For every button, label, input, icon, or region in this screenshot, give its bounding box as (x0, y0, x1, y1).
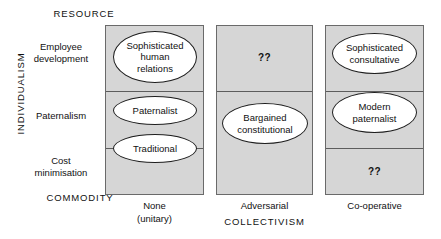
oval-sophisticated-human-relations: Sophisticated human relations (113, 31, 197, 83)
oval-bargained-constitutional-line1: Bargained (237, 112, 292, 124)
column-label-co-operative: Co-operative (325, 199, 424, 212)
x-axis-title-collectivism: COLLECTIVISM (216, 216, 313, 227)
oval-sophisticated-human-relations-line2: human (126, 51, 183, 63)
column-label-none-unitary: None (unitary) (105, 199, 204, 225)
oval-sophisticated-consultative: Sophisticated consultative (332, 33, 417, 74)
row-label-cost-minimisation-line2: minimisation (15, 167, 107, 179)
row-label-employee-development-line1: Employee (15, 41, 107, 53)
oval-sophisticated-human-relations-line1: Sophisticated (126, 40, 183, 52)
row-label-employee-development-line2: development (15, 53, 107, 65)
column-label-adversarial: Adversarial (216, 199, 313, 212)
oval-paternalist-label: Paternalist (133, 105, 178, 117)
row-label-paternalism-line1: Paternalism (15, 110, 107, 122)
cell-text-co-operative-cost-minimisation: ?? (326, 166, 423, 177)
resource-pole-label: RESOURCE (38, 8, 130, 19)
oval-modern-paternalist: Modern paternalist (332, 92, 417, 133)
oval-sophisticated-human-relations-line3: relations (126, 63, 183, 75)
hrm-style-matrix-diagram: RESOURCE INDIVIDUALISM Employee developm… (0, 0, 441, 239)
oval-modern-paternalist-line2: paternalist (353, 113, 397, 125)
row-label-cost-minimisation: Cost minimisation (15, 155, 107, 179)
divider-col3-row2-row3 (326, 148, 423, 149)
column-label-none-unitary-line2: (unitary) (105, 212, 204, 225)
column-label-none-unitary-line1: None (105, 199, 204, 212)
oval-bargained-constitutional-line2: constitutional (237, 124, 292, 136)
cell-text-adversarial-employee-development: ?? (217, 52, 312, 63)
oval-traditional: Traditional (113, 134, 197, 163)
oval-sophisticated-consultative-line1: Sophisticated (346, 42, 403, 54)
oval-traditional-label: Traditional (133, 143, 177, 155)
divider-col2-row1-row2 (217, 91, 312, 92)
oval-bargained-constitutional: Bargained constitutional (222, 103, 308, 144)
column-label-co-operative-line1: Co-operative (325, 199, 424, 212)
oval-paternalist: Paternalist (113, 96, 197, 125)
oval-modern-paternalist-line1: Modern (353, 101, 397, 113)
row-label-employee-development: Employee development (15, 41, 107, 65)
row-label-cost-minimisation-line1: Cost (15, 155, 107, 167)
row-label-paternalism: Paternalism (15, 110, 107, 122)
column-label-adversarial-line1: Adversarial (216, 199, 313, 212)
divider-col1-row1-row2 (106, 91, 203, 92)
oval-sophisticated-consultative-line2: consultative (346, 54, 403, 66)
